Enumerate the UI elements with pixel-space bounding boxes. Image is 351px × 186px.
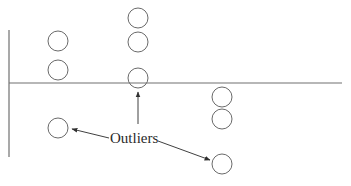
- outliers-label: Outliers: [110, 130, 158, 146]
- outlier-point-circle: [212, 154, 232, 174]
- data-point-circle: [128, 32, 148, 52]
- outlier-arrows: [72, 92, 210, 160]
- data-point-circle: [128, 8, 148, 28]
- outlier-point-circle: [48, 118, 68, 138]
- data-point-circle: [48, 31, 68, 51]
- outliers-diagram: Outliers: [0, 0, 351, 186]
- arrow-to-outlier-group-1: [72, 129, 109, 138]
- data-point-circle: [212, 109, 232, 129]
- data-point-circle: [212, 87, 232, 107]
- data-point-circle: [48, 60, 68, 80]
- data-points: [48, 8, 232, 174]
- outlier-point-circle: [128, 68, 148, 88]
- arrow-to-outlier-group-3: [158, 141, 210, 160]
